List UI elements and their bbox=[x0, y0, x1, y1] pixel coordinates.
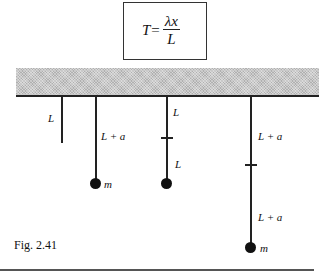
bottom-rule bbox=[0, 269, 314, 271]
joint-tick-4 bbox=[245, 164, 257, 166]
label-p4-seg2: L + a bbox=[258, 211, 282, 223]
label-p3-seg1: L bbox=[173, 106, 179, 118]
formula-denominator: L bbox=[167, 30, 175, 48]
tension-formula: T = λx L bbox=[142, 13, 180, 48]
string-2 bbox=[95, 96, 97, 182]
string-3 bbox=[166, 96, 168, 182]
ceiling-support bbox=[16, 68, 319, 95]
joint-tick-3 bbox=[161, 137, 173, 139]
formula-lhs: T bbox=[142, 22, 150, 39]
string-1 bbox=[61, 96, 63, 143]
formula-numerator: λx bbox=[163, 13, 180, 30]
label-p4-mass: m bbox=[260, 242, 268, 254]
formula-fraction: λx L bbox=[163, 13, 180, 48]
figure-caption: Fig. 2.41 bbox=[14, 238, 57, 253]
label-p3-seg2: L bbox=[175, 158, 181, 170]
string-4 bbox=[250, 96, 252, 246]
formula-box: T = λx L bbox=[123, 2, 207, 60]
formula-equals: = bbox=[151, 22, 159, 39]
mass-4 bbox=[245, 242, 256, 253]
label-p1-seg1: L bbox=[48, 112, 54, 124]
mass-3 bbox=[161, 178, 172, 189]
label-p2-mass: m bbox=[104, 178, 112, 190]
label-p2-seg1: L + a bbox=[101, 130, 125, 142]
mass-2 bbox=[90, 178, 101, 189]
label-p4-seg1: L + a bbox=[258, 130, 282, 142]
